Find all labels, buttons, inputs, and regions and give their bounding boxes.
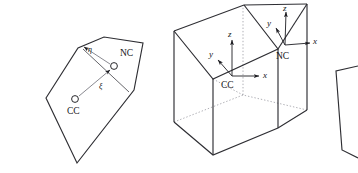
nc-z-label: z	[282, 3, 287, 13]
right-partial-panel	[336, 66, 358, 158]
cell-center-marker	[72, 96, 79, 103]
middle-nc-label: NC	[276, 51, 289, 61]
left-nc-label: NC	[120, 48, 133, 58]
nc-x-label: x	[312, 36, 317, 46]
node-center-marker	[111, 63, 118, 70]
middle-cc-label: CC	[221, 80, 234, 90]
left-cc-label: CC	[67, 106, 80, 116]
diagram-canvas: CC NC ξ η	[0, 0, 358, 173]
eta-label: η	[88, 45, 92, 54]
xi-label: ξ	[99, 82, 103, 91]
figure-root: CC NC ξ η	[0, 0, 358, 173]
middle-3d-panel: x y z CC x y z NC	[174, 3, 317, 155]
right-partial-outline	[336, 66, 358, 158]
left-2d-panel: CC NC ξ η	[46, 37, 143, 163]
nc-y-label: y	[266, 18, 271, 28]
cc-x-label: x	[262, 70, 267, 80]
cc-z-label: z	[227, 29, 232, 39]
cc-y-label: y	[208, 49, 213, 59]
